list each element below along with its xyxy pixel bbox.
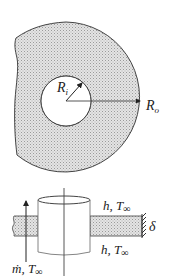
outer-radius-label: Ro <box>145 98 160 115</box>
flow-label: ṁ, T∞ <box>12 261 42 277</box>
fin-tip-wall <box>142 213 146 238</box>
right-fin-section <box>90 216 142 236</box>
fin-top-view: Ri Ro <box>15 22 160 172</box>
top-convection-label: h, T∞ <box>103 198 130 214</box>
thickness-label: δ <box>149 219 156 234</box>
left-fin-section <box>12 216 38 236</box>
annular-fin-diagram: Ri Ro h, T∞ h, T∞ δ ṁ, T∞ <box>0 0 170 279</box>
fin-side-view: h, T∞ h, T∞ δ ṁ, T∞ <box>12 188 156 277</box>
bottom-convection-label: h, T∞ <box>101 242 128 258</box>
